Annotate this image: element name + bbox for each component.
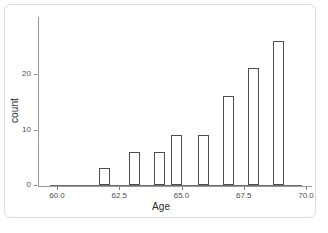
bar-baseline <box>50 185 302 186</box>
chart-card: 60.062.565.067.570.0 01020 Age count <box>4 4 316 218</box>
x-tick-label: 67.5 <box>224 191 264 200</box>
y-axis-title: count <box>9 81 20 141</box>
x-tick-mark <box>57 187 58 190</box>
histogram-bar <box>154 152 165 185</box>
x-tick-label: 60.0 <box>37 191 77 200</box>
y-tick-label: 20 <box>5 69 31 78</box>
histogram-bar <box>99 168 110 185</box>
histogram-bar <box>273 41 284 185</box>
y-tick-mark <box>34 185 37 186</box>
histogram-bar <box>171 135 182 185</box>
x-tick-label: 65.0 <box>162 191 202 200</box>
x-tick-mark <box>119 187 120 190</box>
x-tick-mark <box>306 187 307 190</box>
x-axis-line <box>38 186 312 187</box>
x-tick-mark <box>182 187 183 190</box>
x-tick-label: 62.5 <box>99 191 139 200</box>
histogram-bar <box>129 152 140 185</box>
x-tick-mark <box>244 187 245 190</box>
y-tick-label: 0 <box>5 180 31 189</box>
histogram-bar <box>223 96 234 185</box>
y-tick-mark <box>34 74 37 75</box>
histogram-bar <box>248 68 259 185</box>
x-tick-label: 70.0 <box>286 191 326 200</box>
y-tick-mark <box>34 130 37 131</box>
y-axis-line <box>38 17 39 187</box>
histogram-bar <box>198 135 209 185</box>
x-axis-title: Age <box>5 201 317 212</box>
histogram-plot: 60.062.565.067.570.0 01020 Age count <box>5 5 317 219</box>
